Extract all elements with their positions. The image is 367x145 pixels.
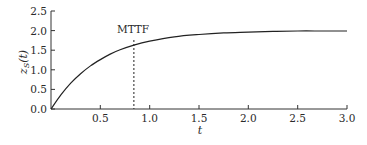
x-ticks [100,105,347,109]
x-tick-label: 0.5 [92,112,109,124]
svg-text:zS(t): zS(t) [17,50,31,75]
x-tick-label: 1.0 [141,112,158,124]
x-tick-label: 2.0 [240,112,257,124]
x-tick-labels: 0.5 1.0 1.5 2.0 2.5 3.0 [92,112,355,124]
zs-curve [51,31,347,109]
x-tick-label: 2.5 [289,112,306,124]
x-tick-label: 3.0 [339,112,356,124]
x-tick-label: 1.5 [191,112,208,124]
y-tick-label: 0.0 [30,103,47,115]
x-axis-label: t [198,124,203,137]
y-label-arg: (t) [17,50,30,63]
y-axis-label: zS(t) [17,50,31,75]
y-tick-label: 2.5 [30,5,47,17]
y-tick-label: 1.0 [30,64,47,76]
y-tick-labels: 0.0 0.5 1.0 1.5 2.0 2.5 [30,5,47,115]
chart: 0.0 0.5 1.0 1.5 2.0 2.5 0.5 1.0 1.5 2.0 … [0,0,367,145]
y-ticks [51,11,55,109]
y-tick-label: 0.5 [30,83,47,95]
mttf-label: MTTF [117,23,149,35]
y-tick-label: 1.5 [30,44,47,56]
y-tick-label: 2.0 [30,25,47,37]
